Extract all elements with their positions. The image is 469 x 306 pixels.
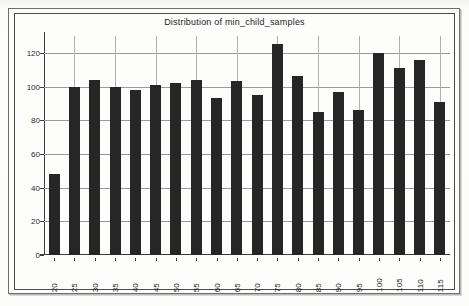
y-tick-label: 80 — [31, 116, 40, 125]
x-tick-label: 75 — [273, 283, 282, 292]
bar — [49, 174, 60, 255]
y-tick-mark — [40, 87, 44, 88]
chart-screenshot: Distribution of min_child_samples 020406… — [0, 0, 469, 306]
x-tick-label: 110 — [416, 279, 425, 292]
x-tick-mark — [74, 258, 75, 261]
x-tick-label: 40 — [131, 283, 140, 292]
x-tick-label: 90 — [334, 283, 343, 292]
x-tick-label: 95 — [355, 283, 364, 292]
gridline-horizontal — [44, 53, 450, 54]
bar — [150, 85, 161, 255]
bar — [414, 60, 425, 255]
x-tick-label: 105 — [395, 278, 404, 292]
bar — [130, 90, 141, 255]
y-tick-label: 120 — [27, 49, 40, 58]
y-tick-mark — [40, 221, 44, 222]
x-tick-mark — [338, 258, 339, 261]
x-tick-mark — [399, 258, 400, 261]
y-tick-label: 100 — [27, 83, 40, 92]
x-tick-label: 60 — [213, 283, 222, 292]
x-axis-line — [40, 254, 450, 255]
bar — [231, 81, 242, 255]
x-tick-label: 65 — [233, 283, 242, 292]
x-tick-mark — [156, 258, 157, 261]
x-tick-mark — [277, 258, 278, 261]
x-tick-mark — [359, 258, 360, 261]
bar — [69, 87, 80, 255]
y-tick-label: 60 — [31, 150, 40, 159]
x-tick-mark — [95, 258, 96, 261]
x-tick-mark — [420, 258, 421, 261]
bar — [353, 110, 364, 255]
y-tick-label: 20 — [31, 217, 40, 226]
x-tick-mark — [379, 258, 380, 261]
y-tick-mark — [40, 120, 44, 121]
x-tick-mark — [176, 258, 177, 261]
x-tick-label: 45 — [152, 283, 161, 292]
y-axis-tick-labels: 020406080100120 — [14, 36, 40, 255]
y-tick-mark — [40, 154, 44, 155]
bar — [191, 80, 202, 255]
gridline-horizontal — [44, 221, 450, 222]
x-tick-mark — [115, 258, 116, 261]
x-axis-tick-labels: 2025303540455055606570758085909510010511… — [44, 258, 450, 292]
x-tick-label: 70 — [253, 283, 262, 292]
x-tick-mark — [135, 258, 136, 261]
bar — [170, 83, 181, 255]
bar — [394, 68, 405, 255]
x-tick-mark — [257, 258, 258, 261]
x-tick-label: 100 — [375, 278, 384, 292]
x-tick-label: 50 — [172, 283, 181, 292]
bar — [252, 95, 263, 255]
x-tick-mark — [237, 258, 238, 261]
x-tick-label: 55 — [192, 283, 201, 292]
bar — [89, 80, 100, 255]
chart-title: Distribution of min_child_samples — [0, 17, 469, 27]
x-tick-mark — [217, 258, 218, 261]
bar — [333, 92, 344, 255]
x-tick-mark — [196, 258, 197, 261]
y-tick-label: 40 — [31, 184, 40, 193]
gridline-horizontal — [44, 154, 450, 155]
x-tick-label: 20 — [50, 283, 59, 292]
x-tick-label: 30 — [91, 283, 100, 292]
x-tick-label: 35 — [111, 283, 120, 292]
bar — [211, 98, 222, 255]
x-tick-label: 85 — [314, 283, 323, 292]
gridline-horizontal — [44, 188, 450, 189]
bar — [434, 102, 445, 255]
y-tick-mark — [40, 255, 44, 256]
x-tick-mark — [298, 258, 299, 261]
x-tick-mark — [318, 258, 319, 261]
x-tick-mark — [54, 258, 55, 261]
bar — [292, 76, 303, 255]
bar — [373, 53, 384, 255]
y-tick-mark — [40, 53, 44, 54]
x-tick-mark — [440, 258, 441, 261]
x-tick-label: 25 — [70, 283, 79, 292]
bar — [313, 112, 324, 255]
y-tick-mark — [40, 188, 44, 189]
bar — [110, 87, 121, 255]
x-tick-label: 115 — [436, 279, 445, 292]
plot-area — [44, 36, 450, 255]
x-tick-label: 80 — [294, 283, 303, 292]
gridline-horizontal — [44, 87, 450, 88]
gridline-horizontal — [44, 120, 450, 121]
bar — [272, 44, 283, 255]
